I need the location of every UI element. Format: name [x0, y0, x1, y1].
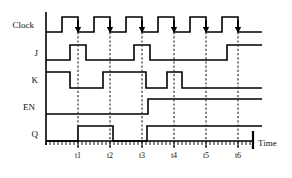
signal-label-clock: Clock — [13, 20, 35, 30]
signal-label-group: ClockJKENQ — [13, 20, 39, 139]
tick-label-t5: t5 — [203, 151, 209, 160]
tick-label-group: t1t2t3t4t5t6 — [75, 151, 241, 160]
signal-label-j: J — [34, 48, 38, 58]
tick-label-t3: t3 — [139, 151, 145, 160]
tick-label-t2: t2 — [107, 151, 113, 160]
time-axis — [46, 131, 253, 149]
jk-flip-flop-timing-diagram: ClockJKENQ t1t2t3t4t5t6 Time — [0, 0, 292, 178]
time-marker-group — [78, 32, 238, 147]
tick-label-t6: t6 — [235, 151, 241, 160]
signal-label-en: EN — [23, 102, 35, 112]
tick-label-t4: t4 — [171, 151, 177, 160]
signal-label-k: K — [32, 75, 39, 85]
signal-label-q: Q — [32, 129, 39, 139]
tick-label-t1: t1 — [75, 151, 81, 160]
time-axis-label: Time — [258, 138, 277, 148]
timing-diagram-canvas: ClockJKENQ t1t2t3t4t5t6 Time — [0, 0, 292, 178]
